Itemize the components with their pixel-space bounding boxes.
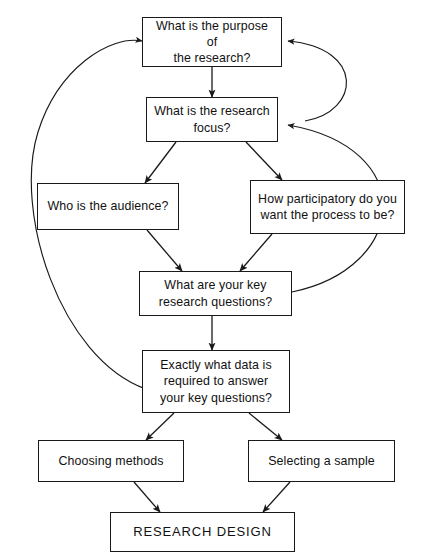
node-audience: Who is the audience? bbox=[37, 183, 179, 230]
node-required-data: Exactly what data is required to answer … bbox=[142, 350, 290, 413]
node-choosing-methods-label: Choosing methods bbox=[53, 453, 170, 469]
edge-focus-to-participatory bbox=[246, 142, 282, 180]
node-audience-label: Who is the audience? bbox=[41, 198, 174, 214]
node-participatory-label: How participatory do you want the proces… bbox=[252, 191, 403, 223]
edge-participatory-to-purpose-feedback bbox=[288, 41, 346, 121]
node-purpose-of-research-label: What is the purpose of the research? bbox=[143, 18, 281, 66]
node-purpose-of-research: What is the purpose of the research? bbox=[142, 17, 282, 67]
edge-data-to-methods bbox=[146, 413, 174, 440]
edge-sample-to-design bbox=[263, 482, 290, 512]
node-selecting-a-sample: Selecting a sample bbox=[248, 440, 395, 482]
edge-methods-to-design bbox=[134, 482, 160, 512]
edge-participatory-to-questions bbox=[240, 234, 272, 271]
node-research-focus: What is the research focus? bbox=[146, 97, 278, 142]
node-participatory: How participatory do you want the proces… bbox=[250, 180, 405, 234]
node-research-design-label: RESEARCH DESIGN bbox=[127, 524, 277, 541]
research-design-flowchart: What is the purpose of the research? Wha… bbox=[0, 0, 444, 559]
edge-data-to-sample bbox=[249, 413, 282, 440]
node-selecting-a-sample-label: Selecting a sample bbox=[262, 453, 381, 469]
node-key-research-questions: What are your key research questions? bbox=[139, 271, 292, 316]
edge-audience-to-questions bbox=[147, 230, 182, 271]
node-required-data-label: Exactly what data is required to answer … bbox=[154, 357, 278, 405]
edge-focus-to-audience bbox=[145, 142, 176, 183]
node-choosing-methods: Choosing methods bbox=[38, 440, 184, 482]
node-research-design: RESEARCH DESIGN bbox=[110, 512, 295, 552]
node-research-focus-label: What is the research focus? bbox=[148, 103, 276, 135]
node-key-research-questions-label: What are your key research questions? bbox=[153, 277, 278, 309]
